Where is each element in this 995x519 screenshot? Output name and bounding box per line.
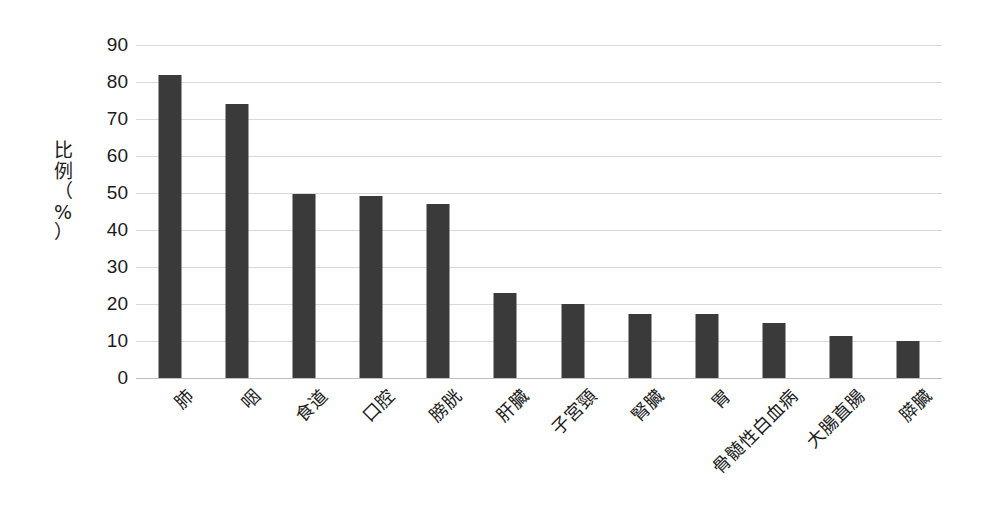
gridline — [136, 341, 942, 342]
y-axis-title: 比 例 （ % ） — [46, 140, 80, 243]
bar — [628, 314, 651, 378]
y-axis-tick-label: 60 — [84, 145, 128, 167]
bar — [225, 104, 248, 378]
bar — [494, 293, 517, 378]
gridline — [136, 156, 942, 157]
y-axis-tick-label: 50 — [84, 182, 128, 204]
gridline — [136, 267, 942, 268]
x-axis-tick-label: 食道 — [288, 382, 333, 427]
gridline — [136, 304, 942, 305]
x-axis-tick-label: 膀胱 — [422, 382, 467, 427]
plot-area — [136, 45, 942, 378]
x-axis-tick-label: 子宮頸 — [543, 382, 601, 440]
bar — [292, 194, 315, 378]
y-axis-tick-label: 70 — [84, 108, 128, 130]
y-axis-tick-labels: 0102030405060708090 — [84, 45, 128, 378]
bar — [360, 196, 383, 378]
gridline — [136, 193, 942, 194]
bar — [158, 75, 181, 378]
x-axis-tick-label: 肺 — [166, 382, 197, 413]
bar — [695, 314, 718, 378]
bar — [427, 204, 450, 378]
bar — [763, 323, 786, 379]
x-axis-tick-label: 腎臓 — [624, 382, 669, 427]
gridline — [136, 45, 942, 46]
x-axis-tick-label: 口腔 — [355, 382, 400, 427]
x-axis-tick-label: 膵臓 — [892, 382, 937, 427]
bar — [897, 341, 920, 378]
gridline — [136, 82, 942, 83]
y-axis-tick-label: 80 — [84, 71, 128, 93]
y-axis-tick-label: 20 — [84, 293, 128, 315]
bar — [561, 304, 584, 378]
x-axis-tick-label: 胃 — [704, 382, 735, 413]
y-axis-tick-label: 30 — [84, 256, 128, 278]
x-axis-tick-label: 咽 — [234, 382, 265, 413]
axis-baseline — [136, 378, 942, 379]
x-axis-tick-labels: 肺咽食道口腔膀胱肝臓子宮頸腎臓胃骨髄性白血病大腸直腸膵臓 — [136, 382, 942, 514]
y-axis-tick-label: 90 — [84, 34, 128, 56]
y-axis-tick-label: 0 — [84, 367, 128, 389]
y-axis-tick-label: 10 — [84, 330, 128, 352]
bar — [830, 336, 853, 378]
gridline — [136, 230, 942, 231]
x-axis-tick-label: 大腸直腸 — [799, 382, 870, 453]
x-axis-tick-label: 肝臓 — [489, 382, 534, 427]
bar-chart: 比 例 （ % ） 0102030405060708090 肺咽食道口腔膀胱肝臓… — [0, 0, 995, 519]
gridline — [136, 119, 942, 120]
y-axis-tick-label: 40 — [84, 219, 128, 241]
